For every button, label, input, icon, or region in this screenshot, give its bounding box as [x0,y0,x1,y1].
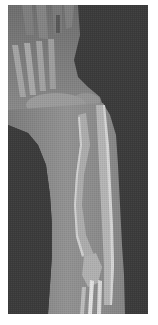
film-grain [8,5,148,314]
xray-forearm-graphic [8,5,148,314]
caption-area [8,316,148,324]
xray-image [8,5,148,314]
